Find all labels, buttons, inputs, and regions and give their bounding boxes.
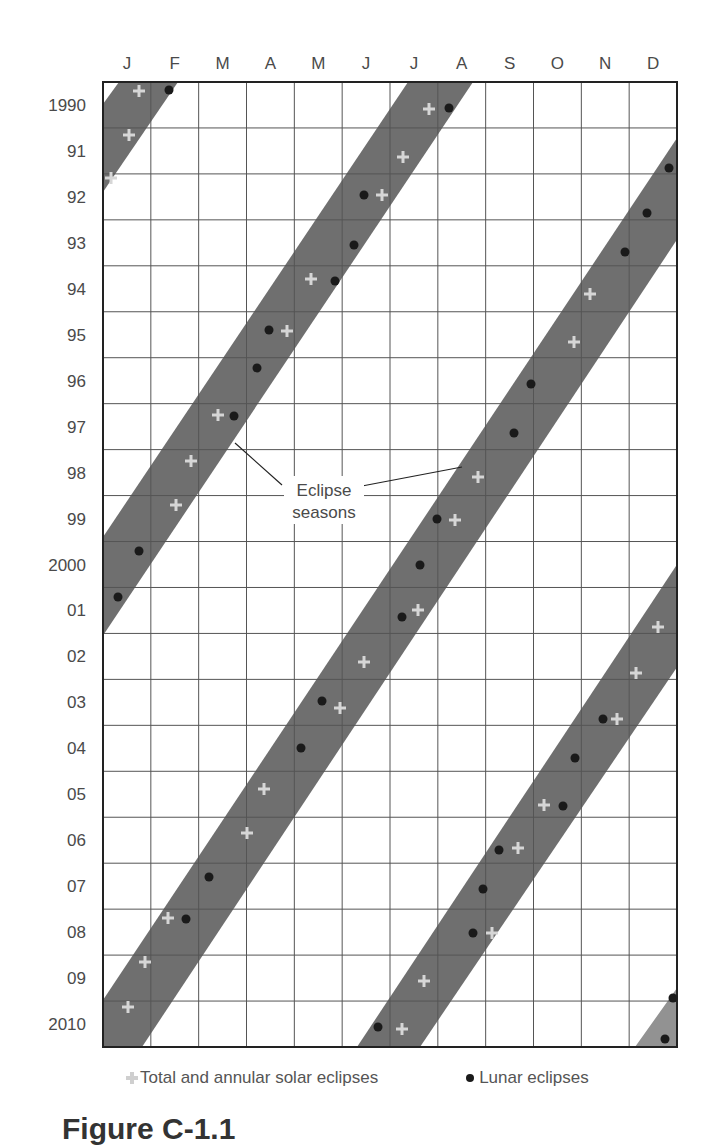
year-label: 92 bbox=[67, 188, 86, 207]
eclipse-season-band-3 bbox=[80, 120, 690, 1047]
month-label: N bbox=[599, 54, 611, 73]
year-label: 96 bbox=[67, 372, 86, 391]
year-label: 09 bbox=[67, 969, 86, 988]
lunar-eclipse-dot-icon bbox=[182, 915, 191, 924]
lunar-eclipse-dot-icon bbox=[165, 86, 174, 95]
lunar-eclipse-dot-icon bbox=[665, 164, 674, 173]
year-label: 01 bbox=[67, 601, 86, 620]
plus-icon bbox=[126, 1072, 138, 1084]
month-label: M bbox=[215, 54, 229, 73]
year-label: 91 bbox=[67, 142, 86, 161]
year-label: 2000 bbox=[48, 556, 86, 575]
lunar-eclipse-dot-icon bbox=[135, 547, 144, 556]
lunar-eclipse-dot-icon bbox=[661, 1035, 670, 1044]
lunar-eclipse-dot-icon bbox=[398, 613, 407, 622]
year-axis-labels: 1990919293949596979899200001020304050607… bbox=[48, 96, 86, 1034]
callout-line-1: Eclipse bbox=[297, 481, 352, 500]
month-label: J bbox=[362, 54, 371, 73]
lunar-eclipse-dot-icon bbox=[669, 994, 678, 1003]
month-label: O bbox=[551, 54, 564, 73]
legend-solar-label: Total and annular solar eclipses bbox=[140, 1068, 378, 1088]
lunar-eclipse-dot-icon bbox=[495, 846, 504, 855]
callout-leader-right bbox=[362, 467, 462, 486]
year-label: 98 bbox=[67, 464, 86, 483]
month-label: J bbox=[410, 54, 419, 73]
legend-item-solar: Total and annular solar eclipses bbox=[126, 1068, 378, 1088]
lunar-eclipse-dot-icon bbox=[527, 380, 536, 389]
lunar-eclipse-dot-icon bbox=[559, 802, 568, 811]
lunar-eclipse-dot-icon bbox=[114, 593, 123, 602]
month-label: S bbox=[504, 54, 515, 73]
year-label: 93 bbox=[67, 234, 86, 253]
year-label: 05 bbox=[67, 785, 86, 804]
year-label: 04 bbox=[67, 739, 86, 758]
legend-item-lunar: Lunar eclipses bbox=[466, 1068, 589, 1088]
lunar-eclipse-dot-icon bbox=[469, 929, 478, 938]
year-label: 06 bbox=[67, 831, 86, 850]
lunar-eclipse-dot-icon bbox=[621, 248, 630, 257]
eclipse-season-bands bbox=[40, 82, 690, 1100]
legend-lunar-label: Lunar eclipses bbox=[479, 1068, 589, 1088]
eclipse-season-band-1 bbox=[103, 82, 178, 192]
year-label: 94 bbox=[67, 280, 86, 299]
month-label: F bbox=[170, 54, 180, 73]
chart-legend: Total and annular solar eclipses Lunar e… bbox=[126, 1066, 686, 1090]
lunar-eclipse-dot-icon bbox=[571, 754, 580, 763]
year-label: 03 bbox=[67, 693, 86, 712]
year-label: 02 bbox=[67, 647, 86, 666]
lunar-eclipse-dot-icon bbox=[350, 241, 359, 250]
year-label: 99 bbox=[67, 510, 86, 529]
year-label: 97 bbox=[67, 418, 86, 437]
month-axis-labels: JFMAMJJASOND bbox=[123, 54, 660, 73]
lunar-eclipse-dot-icon bbox=[318, 697, 327, 706]
lunar-eclipse-dot-icon bbox=[331, 277, 340, 286]
lunar-eclipse-dot-icon bbox=[433, 515, 442, 524]
lunar-eclipse-dot-icon bbox=[205, 873, 214, 882]
lunar-eclipse-dot-icon bbox=[416, 561, 425, 570]
dot-icon bbox=[466, 1074, 474, 1082]
lunar-eclipse-dot-icon bbox=[297, 744, 306, 753]
figure-caption: Figure C-1.1 bbox=[62, 1112, 235, 1146]
month-label: A bbox=[265, 54, 277, 73]
lunar-eclipse-dot-icon bbox=[360, 191, 369, 200]
year-label: 1990 bbox=[48, 96, 86, 115]
lunar-eclipse-dot-icon bbox=[230, 412, 239, 421]
month-label: J bbox=[123, 54, 132, 73]
lunar-eclipse-dot-icon bbox=[510, 429, 519, 438]
eclipse-seasons-callout: Eclipse seasons bbox=[235, 443, 462, 524]
year-label: 08 bbox=[67, 923, 86, 942]
month-label: D bbox=[647, 54, 659, 73]
month-label: A bbox=[456, 54, 468, 73]
callout-line-2: seasons bbox=[292, 503, 355, 522]
year-label: 95 bbox=[67, 326, 86, 345]
year-label: 07 bbox=[67, 877, 86, 896]
lunar-eclipse-dot-icon bbox=[599, 715, 608, 724]
month-label: M bbox=[311, 54, 325, 73]
lunar-eclipse-dot-icon bbox=[253, 364, 262, 373]
year-label: 2010 bbox=[48, 1015, 86, 1034]
lunar-eclipse-dot-icon bbox=[265, 326, 274, 335]
lunar-eclipse-dot-icon bbox=[374, 1023, 383, 1032]
lunar-eclipse-dot-icon bbox=[643, 209, 652, 218]
lunar-eclipse-dot-icon bbox=[479, 885, 488, 894]
lunar-eclipse-dot-icon bbox=[445, 104, 454, 113]
